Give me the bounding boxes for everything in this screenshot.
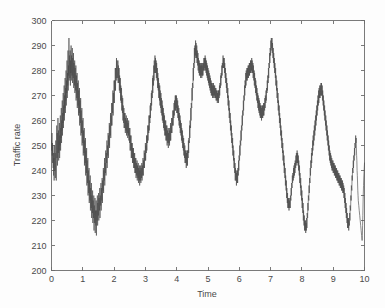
y-tick-label: 260 [31, 116, 46, 126]
y-tick-label: 270 [31, 91, 46, 101]
x-axis-title: Time [197, 289, 217, 299]
x-tick-label: 9 [331, 274, 336, 284]
x-tick-label: 4 [174, 274, 179, 284]
x-tick-label: 5 [205, 274, 210, 284]
y-tick-label: 200 [31, 266, 46, 276]
y-tick-label: 240 [31, 166, 46, 176]
y-tick-label: 280 [31, 66, 46, 76]
x-tick-label: 8 [299, 274, 304, 284]
x-tick-label: 10 [359, 274, 369, 284]
x-tick-label: 3 [143, 274, 148, 284]
y-tick-label: 290 [31, 41, 46, 51]
x-tick-label: 6 [237, 274, 242, 284]
y-tick-label: 210 [31, 241, 46, 251]
traffic-rate-line-chart: 012345678910 200210220230240250260270280… [0, 0, 385, 308]
x-tick-label: 1 [80, 274, 85, 284]
y-tick-label: 300 [31, 16, 46, 26]
y-tick-label: 250 [31, 141, 46, 151]
y-axis-title: Traffic rate [12, 124, 22, 167]
y-tick-label: 230 [31, 191, 46, 201]
x-tick-label: 2 [112, 274, 117, 284]
y-tick-label: 220 [31, 216, 46, 226]
x-tick-label: 0 [49, 274, 54, 284]
x-tick-label: 7 [268, 274, 273, 284]
figure-container: 012345678910 200210220230240250260270280… [0, 0, 385, 308]
